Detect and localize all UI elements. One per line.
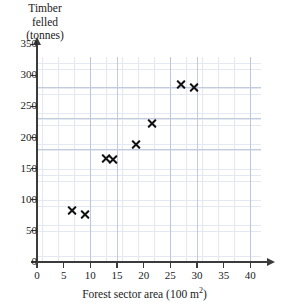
x-tick-30 [196,262,197,268]
y-tick-label: 300 [0,69,37,80]
x-axis-label-close: ) [203,288,207,300]
data-point [108,154,119,165]
x-axis-label-main: Forest sector area (100 m [82,288,199,300]
data-point [146,118,157,129]
data-point [189,82,200,93]
scatter-chart: Timber felled (tonnes) 05010015020025030… [0,0,289,306]
x-tick-label: 20 [131,270,157,281]
x-tick-0 [36,262,37,268]
plot-area [37,57,261,262]
y-axis-label: Timber felled (tonnes) [8,2,82,43]
y-tick-label: 0 [0,256,37,267]
major-gridlines [37,57,261,262]
y-tick-label: 150 [0,163,37,174]
x-tick-15 [116,262,117,268]
x-tick-5 [63,262,64,268]
x-axis-arrow [267,258,275,266]
x-tick-20 [143,262,144,268]
data-point [79,209,90,220]
y-tick-label: 250 [0,100,37,111]
x-tick-label: 0 [24,270,50,281]
x-axis-label: Forest sector area (100 m2) [0,286,289,300]
x-tick-40 [250,262,251,268]
x-tick-label: 30 [184,270,210,281]
x-tick-label: 40 [237,270,263,281]
x-axis-line [37,261,268,262]
y-tick-label: 100 [0,194,37,205]
x-tick-label: 5 [51,270,77,281]
x-tick-label: 35 [211,270,237,281]
x-tick-25 [170,262,171,268]
y-tick-label: 200 [0,132,37,143]
x-tick-label: 10 [77,270,103,281]
y-tick-label: 50 [0,225,37,236]
y-tick-label: 350 [0,38,37,49]
data-point [130,139,141,150]
x-tick-label: 25 [157,270,183,281]
x-tick-10 [90,262,91,268]
x-tick-label: 15 [104,270,130,281]
data-point [175,79,186,90]
x-tick-35 [223,262,224,268]
data-point [66,205,77,216]
